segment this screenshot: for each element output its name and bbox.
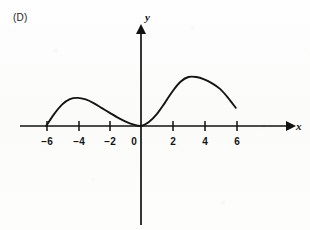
- x-tick-label-minus-4: −4: [73, 136, 85, 147]
- x-tick-label-4: 4: [202, 136, 208, 147]
- x-axis-label: x: [295, 120, 302, 132]
- x-tick-label-minus-6: −6: [41, 136, 53, 147]
- x-tick-label-2: 2: [170, 136, 176, 147]
- x-axis-arrow-icon: [286, 121, 296, 131]
- y-axis-arrow-icon: [136, 24, 146, 34]
- x-tick-label-0: 0: [131, 136, 137, 147]
- y-axis-label: y: [143, 11, 150, 23]
- figure-root: (D) −6 −4 −2 0 2 4 6 x y: [0, 0, 310, 230]
- x-tick-label-minus-2: −2: [104, 136, 116, 147]
- graph-canvas: −6 −4 −2 0 2 4 6 x y: [0, 0, 310, 230]
- x-tick-label-6: 6: [234, 136, 240, 147]
